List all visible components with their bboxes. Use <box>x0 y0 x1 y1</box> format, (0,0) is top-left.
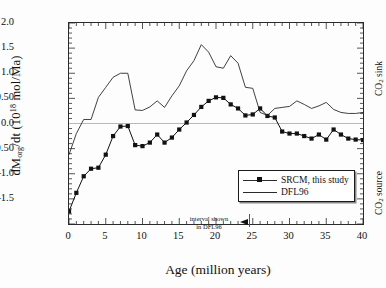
legend-label-dfl96: DFL96 <box>281 187 308 197</box>
x-tick-label: 30 <box>274 230 304 241</box>
y-tick-label: 2.0 <box>0 16 14 27</box>
y-axis-label: dMorg/dt (1018 mol/Ma) <box>9 26 24 206</box>
legend-line-icon-2 <box>243 192 277 193</box>
co2-source-text-a: CO <box>374 202 384 215</box>
co2-sink-label: CO2 sink <box>374 61 385 96</box>
x-tick-label: 25 <box>237 230 267 241</box>
legend-square-marker-icon <box>257 177 262 182</box>
co2-source-text-b: source <box>374 171 384 198</box>
y-tick-label: -1.5 <box>0 192 14 203</box>
x-tick-label: 15 <box>163 230 193 241</box>
interval-annotation: interval shown in DFL96 <box>178 215 240 230</box>
interval-arrow-icon <box>240 219 248 225</box>
x-tick-label: 10 <box>127 230 157 241</box>
y-tick-label: 1.5 <box>0 41 14 52</box>
legend-swatch-srcm <box>243 175 277 185</box>
co2-sink-subscript: 2 <box>377 79 385 83</box>
interval-tick-marker <box>249 214 250 227</box>
co2-source-label: CO2 source <box>374 171 385 215</box>
co2-source-subscript: 2 <box>377 198 385 202</box>
x-tick-label: 20 <box>200 230 230 241</box>
legend-swatch-dfl96 <box>243 187 277 197</box>
co2-sink-text-a: CO <box>374 83 384 96</box>
interval-annotation-line2: in DFL96 <box>178 223 240 231</box>
y-axis-label-sub: org <box>15 147 24 158</box>
x-tick-label: 5 <box>90 230 120 241</box>
x-tick-label: 0 <box>53 230 83 241</box>
y-tick-label: -0.50 <box>0 142 14 153</box>
y-tick-label: 0.0 <box>0 117 14 128</box>
x-tick-label: 35 <box>310 230 340 241</box>
interval-annotation-line1: interval shown <box>178 215 240 223</box>
y-axis-label-sup: 18 <box>9 104 18 112</box>
chart-legend: SRCM, this study DFL96 <box>238 170 355 202</box>
y-tick-label: -1.0 <box>0 167 14 178</box>
co2-sink-text-b: sink <box>374 61 384 79</box>
legend-label-srcm: SRCM, this study <box>281 175 349 185</box>
x-tick-label: 40 <box>347 230 377 241</box>
legend-item-dfl96: DFL96 <box>243 186 349 198</box>
y-tick-label: 0.50 <box>0 91 14 102</box>
y-tick-label: 1.0 <box>0 66 14 77</box>
figure-container: dMorg/dt (1018 mol/Ma) Age (million year… <box>0 0 386 288</box>
legend-item-srcm: SRCM, this study <box>243 174 349 186</box>
x-axis-label: Age (million years) <box>68 262 368 278</box>
